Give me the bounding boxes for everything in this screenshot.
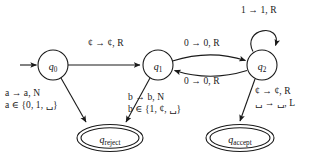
transition-label-q2-q1-bottom: 0 → 0, R — [184, 76, 220, 88]
transition-label-q0-qreject-line2: a ∈ {0, 1, ␣} — [5, 100, 58, 112]
transition-label-q0-q1: ¢ → ¢, R — [88, 38, 124, 50]
state-label-qreject: qreject — [100, 134, 121, 145]
transition-label-q1-qreject-line2: b ∈ {1, ¢, ␣} — [128, 104, 181, 116]
transition-label-q0-qreject-line1: a → a, N — [5, 88, 40, 100]
state-label-q0: q0 — [49, 61, 58, 72]
transition-label-q2-qaccept-line1: ¢ → ¢, R — [255, 86, 291, 98]
transition-arrow-q0-qreject — [61, 78, 86, 122]
transition-label-q2-self-loop: 1 → 1, R — [241, 5, 277, 17]
state-label-q2: q2 — [258, 61, 267, 72]
state-label-qaccept: qaccept — [228, 134, 251, 145]
diagram-svg — [0, 0, 311, 163]
state-label-q1: q1 — [154, 61, 163, 72]
transition-label-q2-qaccept-line2: ␣ → ␣, L — [255, 98, 295, 110]
transition-label-q1-q2-top: 0 → 0, R — [184, 38, 220, 50]
transition-arrow-q2-self-loop — [251, 31, 277, 52]
transition-arrow-q1-q2-top — [173, 55, 246, 61]
transition-arrow-q2-qaccept — [240, 79, 255, 121]
state-diagram-canvas: q0 q1 q2 qreject qaccept ¢ → ¢, R 0 → 0,… — [0, 0, 311, 163]
transition-label-q1-qreject-line1: b → b, N — [128, 92, 164, 104]
